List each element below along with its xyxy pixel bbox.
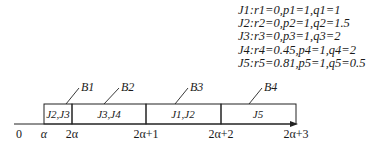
leader-line-b4 <box>249 88 262 104</box>
job-parameter-legend: J1:r1=0,p1=1,q1=1 J2:r2=0,p2=1,q2=1.5 J3… <box>238 4 365 70</box>
batch-label-b4: B4 <box>264 80 277 94</box>
legend-line-j5: J5:r5=0.81,p5=1,q5=0.5 <box>238 57 365 70</box>
tick-2alpha-plus-2: 2α+2 <box>208 127 233 141</box>
tick-2alpha-plus-3: 2α+3 <box>283 127 308 141</box>
tick-2alpha-plus-1: 2α+1 <box>133 127 158 141</box>
batch-jobs-b2: J3,J4 <box>97 108 121 120</box>
batch-label-b2: B2 <box>121 80 134 94</box>
batch-jobs-b1: J2,J3 <box>46 108 70 120</box>
leader-line-b3 <box>175 88 188 104</box>
legend-line-j3: J3:r3=0,p3=1,q3=2 <box>238 30 365 43</box>
batch-jobs-b3: J1,J2 <box>171 108 195 120</box>
leader-line-b1 <box>66 88 79 104</box>
leader-line-b2 <box>104 88 119 104</box>
batch-label-b3: B3 <box>190 80 203 94</box>
batch-label-b1: B1 <box>81 80 94 94</box>
batch-jobs-b4: J5 <box>253 108 264 120</box>
tick-2alpha: 2α <box>66 127 79 141</box>
tick-alpha: α <box>41 127 48 141</box>
legend-line-j4: J4:r4=0.45,p4=1,q4=2 <box>238 44 365 57</box>
tick-0: 0 <box>16 127 22 141</box>
